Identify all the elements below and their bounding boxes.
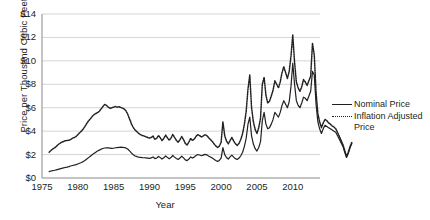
legend-label-inflation-adjusted-line2: Price xyxy=(332,122,423,134)
legend-label-nominal: Nominal Price xyxy=(354,99,410,109)
series-line-nominal xyxy=(49,63,352,171)
x-axis-title: Year xyxy=(125,199,205,210)
legend-item-inflation-adjusted: Inflation Adjusted Price xyxy=(332,111,423,134)
legend-label-inflation-adjusted: Inflation Adjusted xyxy=(354,111,423,121)
legend-line-solid-icon xyxy=(332,101,352,109)
legend-item-nominal: Nominal Price xyxy=(332,99,423,111)
chart-legend: Nominal Price Inflation Adjusted Price xyxy=(332,99,423,134)
series-line-inflation-adjusted xyxy=(49,35,352,156)
legend-line-dotted-icon xyxy=(332,112,352,120)
chart-figure: Price per Thousand Cubic Feet $0$2$4$6$8… xyxy=(0,0,430,220)
